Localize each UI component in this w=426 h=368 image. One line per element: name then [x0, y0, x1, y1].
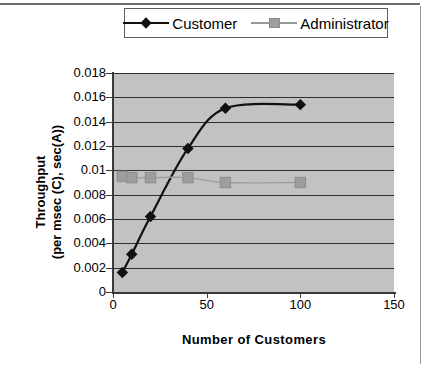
data-point-square-marker — [145, 172, 155, 182]
data-point-diamond-marker — [146, 212, 155, 221]
x-axis-tick-label: 0 — [83, 297, 143, 312]
series-customer — [118, 100, 305, 277]
y-axis-tick-mark — [106, 219, 113, 220]
y-axis-tick-label: 0.016 — [44, 90, 106, 103]
y-axis-tick-mark — [106, 122, 113, 123]
x-axis-tick-mark — [300, 292, 301, 298]
x-axis-tick-mark — [394, 292, 395, 298]
y-axis-tick-label: 0.018 — [44, 66, 106, 79]
y-axis-tick-label: 0.008 — [44, 188, 106, 201]
x-axis-tick-mark — [207, 292, 208, 298]
data-series-layer — [113, 73, 394, 292]
x-axis-tick-label: 100 — [270, 297, 330, 312]
y-axis-tick-label: 0.004 — [44, 236, 106, 249]
y-axis-tick-mark — [106, 268, 113, 269]
data-point-square-marker — [183, 172, 193, 182]
legend-item-administrator: Administrator — [251, 15, 388, 32]
data-point-square-marker — [117, 171, 127, 181]
data-point-square-marker — [220, 177, 230, 187]
y-axis-tick-label: 0.002 — [44, 261, 106, 274]
data-point-diamond-marker — [127, 250, 136, 259]
legend-item-customer: Customer — [123, 15, 237, 32]
data-point-diamond-marker — [296, 100, 305, 109]
data-point-square-marker — [127, 172, 137, 182]
x-axis-tick-label: 50 — [177, 297, 237, 312]
y-axis-tick-label: 0.012 — [44, 139, 106, 152]
data-point-diamond-marker — [118, 268, 127, 277]
y-axis-tick-mark — [106, 170, 113, 171]
x-axis-tick-mark — [113, 292, 114, 298]
legend-label-customer: Customer — [172, 15, 237, 32]
y-axis-tick-mark — [106, 146, 113, 147]
x-axis-tick-label: 150 — [364, 297, 424, 312]
administrator-line-swatch-icon — [251, 17, 297, 29]
y-axis-tick-mark — [106, 73, 113, 74]
y-axis-tick-mark — [106, 243, 113, 244]
legend-label-administrator: Administrator — [300, 15, 388, 32]
series-line-customer — [122, 104, 300, 273]
chart-legend: Customer Administrator — [124, 8, 388, 38]
square-marker-icon — [269, 18, 280, 28]
diamond-marker-icon — [141, 17, 152, 28]
series-administrator — [117, 171, 305, 187]
chart-figure: Customer Administrator Throughput (per m… — [0, 0, 426, 368]
customer-line-swatch-icon — [123, 17, 169, 29]
y-axis-tick-label: 0.006 — [44, 212, 106, 225]
page-top-border — [0, 3, 420, 5]
x-axis-title: Number of Customers — [113, 332, 395, 347]
y-axis-tick-label: 0.01 — [44, 163, 106, 176]
x-axis-line — [112, 292, 396, 294]
y-axis-tick-mark — [106, 97, 113, 98]
data-point-diamond-marker — [221, 104, 230, 113]
y-axis-tick-mark — [106, 292, 113, 293]
data-point-square-marker — [295, 177, 305, 187]
y-axis-tick-mark — [106, 195, 113, 196]
y-axis-tick-label: 0.014 — [44, 115, 106, 128]
